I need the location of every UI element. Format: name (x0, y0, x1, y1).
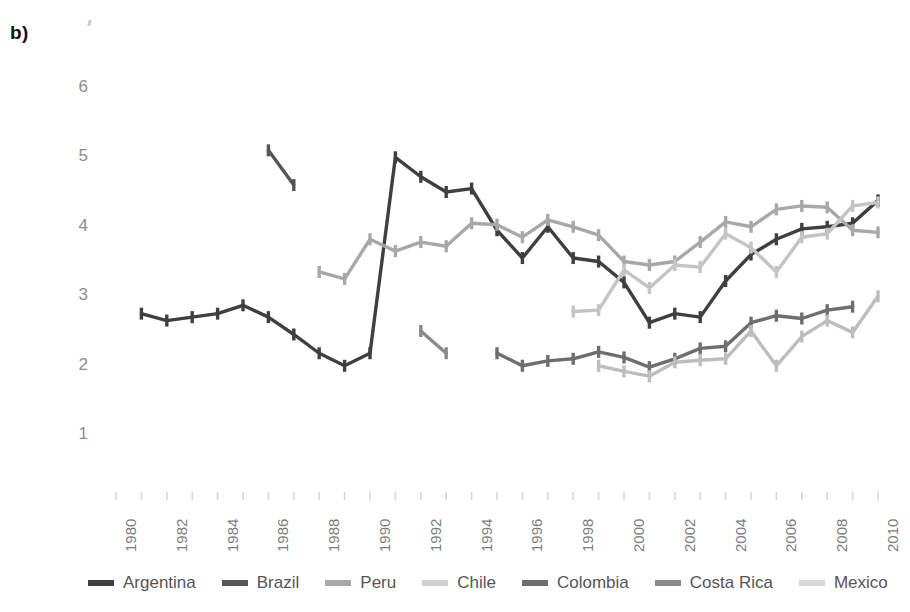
legend-label: Colombia (557, 573, 629, 593)
legend-swatch-icon (88, 580, 114, 586)
legend-item-mexico[interactable]: Mexico (799, 573, 888, 593)
y-tick-label: 5 (62, 146, 88, 166)
x-tick-label: 1998 (579, 519, 596, 552)
x-tick-label: 2002 (681, 519, 698, 552)
legend-swatch-icon (222, 580, 248, 586)
chart-legend: ArgentinaBrazilPeruChileColombiaCosta Ri… (88, 570, 900, 596)
x-tick-label: 2006 (782, 519, 799, 552)
x-tick-marks (116, 492, 878, 500)
legend-item-argentina[interactable]: Argentina (88, 573, 196, 593)
x-tick-label: 1994 (478, 519, 495, 552)
series-costa-rica (421, 325, 446, 359)
x-tick-label: 1986 (274, 519, 291, 552)
legend-label: Argentina (123, 573, 196, 593)
legend-label: Peru (360, 573, 396, 593)
legend-swatch-icon (655, 580, 681, 586)
y-tick-label: 3 (62, 285, 88, 305)
series-line (268, 150, 293, 185)
legend-label: Chile (457, 573, 496, 593)
x-tick-label: 1992 (427, 519, 444, 552)
x-tick-label: 1988 (325, 519, 342, 552)
x-tick-label: 1990 (376, 519, 393, 552)
series-layer (141, 144, 878, 382)
series-line (421, 331, 446, 353)
y-tick-label: 1 (62, 424, 88, 444)
legend-swatch-icon (522, 580, 548, 586)
x-tick-label: 2004 (732, 519, 749, 552)
legend-item-chile[interactable]: Chile (422, 573, 496, 593)
y-tick-label: 2 (62, 355, 88, 375)
legend-item-brazil[interactable]: Brazil (222, 573, 300, 593)
legend-item-peru[interactable]: Peru (325, 573, 396, 593)
x-tick-label: 2008 (833, 519, 850, 552)
legend-item-costa-rica[interactable]: Costa Rica (655, 573, 773, 593)
legend-label: Costa Rica (690, 573, 773, 593)
legend-swatch-icon (325, 580, 351, 586)
series-line (319, 206, 878, 279)
series-brazil (268, 144, 293, 191)
x-tick-label: 2000 (630, 519, 647, 552)
x-tick-label: 1982 (173, 519, 190, 552)
legend-label: Mexico (834, 573, 888, 593)
legend-label: Brazil (257, 573, 300, 593)
y-tick-label: 4 (62, 216, 88, 236)
y-tick-label: 6 (62, 77, 88, 97)
legend-swatch-icon (799, 580, 825, 586)
x-tick-label: 1980 (122, 519, 139, 552)
x-tick-label: 1984 (224, 519, 241, 552)
figure-panel-b: b) 123456 198019821984198619881990199219… (0, 0, 910, 612)
x-tick-label: 2010 (884, 519, 901, 552)
series-peru (319, 200, 878, 285)
legend-item-colombia[interactable]: Colombia (522, 573, 629, 593)
legend-swatch-icon (422, 580, 448, 586)
x-tick-label: 1996 (528, 519, 545, 552)
